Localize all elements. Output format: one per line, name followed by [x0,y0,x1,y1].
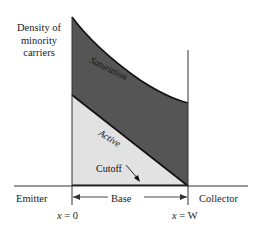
y-axis-label-line-2: minority [8,35,70,48]
region-label-collector: Collector [199,193,238,204]
coordinate-label-x-w: x = W [172,210,198,221]
x-w-value: = W [177,210,198,221]
y-axis-label: Density of minority carriers [8,22,70,60]
x-zero-value: = 0 [62,210,78,221]
curve-label-cutoff: Cutoff [96,163,122,174]
y-axis-label-line-3: carriers [8,47,70,60]
base-arrowhead-left [73,194,80,200]
region-label-base: Base [111,193,131,204]
base-arrowhead-right [180,194,187,200]
region-label-emitter: Emitter [16,193,48,204]
y-axis-label-line-1: Density of [8,22,70,35]
coordinate-label-x-zero: x = 0 [57,210,78,221]
